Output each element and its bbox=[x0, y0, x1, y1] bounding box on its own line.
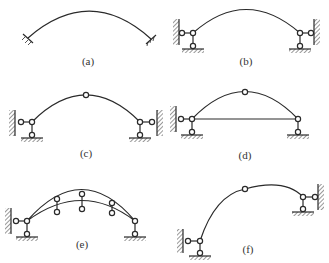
panel-a bbox=[22, 11, 156, 46]
panel-label-c: (c) bbox=[80, 147, 92, 159]
panel-d bbox=[170, 89, 309, 139]
arch-diagrams bbox=[0, 0, 329, 263]
panel-label-e: (e) bbox=[76, 238, 88, 250]
crown-hinge bbox=[83, 92, 88, 97]
panel-label-a: (a) bbox=[82, 55, 94, 67]
panel-e bbox=[5, 190, 146, 242]
arch-curve bbox=[193, 10, 300, 34]
panel-b bbox=[173, 10, 320, 54]
panel-label-b: (b) bbox=[240, 55, 253, 67]
arch-left-segment bbox=[200, 189, 245, 241]
arch-right-segment bbox=[245, 185, 303, 197]
panel-label-d: (d) bbox=[239, 149, 252, 161]
panel-label-f: (f) bbox=[243, 243, 254, 255]
arch-curve bbox=[32, 95, 140, 122]
arch-curve bbox=[28, 11, 151, 39]
panel-c bbox=[9, 92, 163, 142]
arch-curve bbox=[192, 92, 298, 120]
